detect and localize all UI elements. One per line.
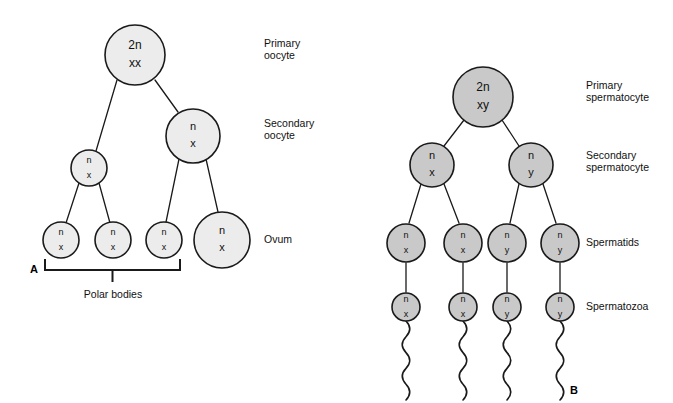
cell-ploidy-primary-spermatocyte: 2n (476, 80, 489, 94)
label-secondary-spermatocyte: Secondary (586, 149, 637, 161)
cell-primary-spermatocyte[interactable]: 2nxy (453, 67, 513, 127)
bracket-caption-polar-bodies-bracket: Polar bodies (84, 288, 142, 300)
cell-chromosome-spermatozoon-2: x (461, 309, 466, 319)
cell-spermatozoon-4[interactable]: ny (546, 293, 574, 321)
cell-body-ovum[interactable] (194, 212, 250, 268)
label-ovum: Ovum (264, 233, 292, 245)
cell-first-polar-body[interactable]: nx (71, 150, 107, 186)
cell-chromosome-spermatid-2: x (461, 245, 466, 255)
cell-ploidy-polar-body-1: n (58, 227, 63, 237)
cell-chromosome-spermatid-4: y (558, 245, 563, 255)
cell-chromosome-secondary-oocyte: x (190, 137, 196, 149)
label-primary-spermatocyte: spermatocyte (586, 91, 649, 103)
cell-ploidy-polar-body-3: n (161, 227, 166, 237)
cell-body-primary-oocyte[interactable] (105, 25, 165, 85)
cell-ploidy-secondary-oocyte: n (190, 120, 196, 132)
cell-polar-body-2[interactable]: nx (95, 222, 131, 258)
cell-body-primary-spermatocyte[interactable] (453, 67, 513, 127)
cell-chromosome-polar-body-3: x (162, 242, 167, 252)
cell-chromosome-ovum: x (219, 241, 225, 253)
cell-ploidy-spermatozoon-3: n (504, 294, 509, 304)
cell-chromosome-first-polar-body: x (87, 170, 92, 180)
cell-ploidy-polar-body-2: n (110, 227, 115, 237)
cell-ovum[interactable]: nx (194, 212, 250, 268)
cell-ploidy-secondary-spermatocyte-y: n (528, 149, 534, 161)
cell-spermatid-3[interactable]: ny (488, 224, 526, 262)
cell-spermatid-2[interactable]: nx (444, 224, 482, 262)
cell-ploidy-spermatid-3: n (504, 230, 509, 240)
label-secondary-spermatocyte: spermatocyte (586, 161, 649, 173)
cell-spermatozoon-1[interactable]: nx (392, 293, 420, 321)
label-spermatozoa: Spermatozoa (586, 300, 649, 312)
label-spermatids: Spermatids (586, 236, 639, 248)
cell-ploidy-spermatid-4: n (557, 230, 562, 240)
cell-ploidy-first-polar-body: n (86, 155, 91, 165)
label-secondary-oocyte: Secondary (264, 117, 315, 129)
cell-chromosome-spermatozoon-3: y (505, 309, 510, 319)
label-primary-oocyte: Primary (264, 37, 301, 49)
cell-chromosome-secondary-spermatocyte-x: x (429, 166, 435, 178)
cell-secondary-spermatocyte-x[interactable]: nx (410, 143, 454, 187)
cell-spermatid-4[interactable]: ny (541, 224, 579, 262)
cell-ploidy-ovum: n (219, 224, 225, 236)
cell-spermatid-1[interactable]: nx (387, 224, 425, 262)
cell-chromosome-spermatozoon-4: y (558, 309, 563, 319)
label-primary-oocyte: oocyte (264, 49, 295, 61)
cell-polar-body-3[interactable]: nx (146, 222, 182, 258)
panel-letter-a: A (30, 263, 38, 275)
meiosis-diagram: 2nxxnxnxnxnxnxnxPolar bodiesPrimaryoocyt… (0, 0, 673, 403)
cell-ploidy-primary-oocyte: 2n (128, 38, 141, 52)
cell-body-secondary-oocyte[interactable] (166, 109, 220, 163)
panel-letter-b: B (570, 384, 578, 396)
cell-spermatozoon-2[interactable]: nx (449, 293, 477, 321)
cell-ploidy-spermatozoon-1: n (403, 294, 408, 304)
cell-secondary-oocyte[interactable]: nx (166, 109, 220, 163)
diagram-background (0, 0, 673, 403)
cell-chromosome-spermatid-3: y (505, 245, 510, 255)
meiosis-diagram-canvas: 2nxxnxnxnxnxnxnxPolar bodiesPrimaryoocyt… (0, 0, 673, 403)
cell-secondary-spermatocyte-y[interactable]: ny (509, 143, 553, 187)
cell-ploidy-spermatid-1: n (403, 230, 408, 240)
cell-chromosome-polar-body-1: x (59, 242, 64, 252)
cell-ploidy-spermatid-2: n (460, 230, 465, 240)
cell-chromosome-primary-oocyte: xx (129, 56, 141, 70)
cell-ploidy-spermatozoon-4: n (557, 294, 562, 304)
cell-polar-body-1[interactable]: nx (43, 222, 79, 258)
cell-ploidy-spermatozoon-2: n (460, 294, 465, 304)
cell-chromosome-secondary-spermatocyte-y: y (528, 166, 534, 178)
cell-chromosome-spermatozoon-1: x (404, 309, 409, 319)
cell-chromosome-polar-body-2: x (111, 242, 116, 252)
cell-chromosome-primary-spermatocyte: xy (477, 98, 489, 112)
cell-ploidy-secondary-spermatocyte-x: n (429, 149, 435, 161)
cell-primary-oocyte[interactable]: 2nxx (105, 25, 165, 85)
label-secondary-oocyte: oocyte (264, 129, 295, 141)
label-primary-spermatocyte: Primary (586, 79, 623, 91)
cell-spermatozoon-3[interactable]: ny (493, 293, 521, 321)
cell-chromosome-spermatid-1: x (404, 245, 409, 255)
